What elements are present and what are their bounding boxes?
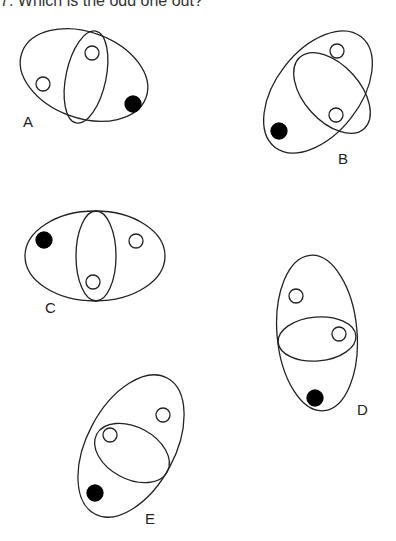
figure-b [242,11,394,173]
figure-d [270,252,363,414]
figure-label-b: B [338,150,348,167]
figure-label-c: C [45,299,56,316]
figure-e [56,357,206,534]
figure-label-a: A [23,113,33,130]
figure-label-e: E [145,510,155,527]
figure-label-d: D [357,401,368,418]
figure-c [25,211,165,301]
puzzle-diagram: A B C D E [0,0,396,541]
